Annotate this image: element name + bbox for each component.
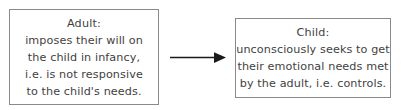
node-adult-line-4: i.e. is not responsive [10, 66, 158, 83]
node-child-line-4: by the adult, i.e. controls. [236, 75, 390, 92]
node-adult[interactable]: Adult: imposes their will on the child i… [9, 9, 159, 105]
node-child-line-1: Child: [236, 24, 390, 41]
node-child-line-2: unconsciously seeks to get [236, 41, 390, 58]
node-child[interactable]: Child: unconsciously seeks to get their … [235, 18, 391, 98]
node-adult-line-2: imposes their will on [10, 32, 158, 49]
flow-diagram: Adult: imposes their will on the child i… [0, 0, 402, 110]
node-adult-line-1: Adult: [10, 15, 158, 32]
node-adult-line-5: to the child's needs. [10, 83, 158, 100]
node-child-line-3: their emotional needs met [236, 58, 390, 75]
node-adult-line-3: the child in infancy, [10, 49, 158, 66]
arrow-right-icon [168, 46, 230, 70]
